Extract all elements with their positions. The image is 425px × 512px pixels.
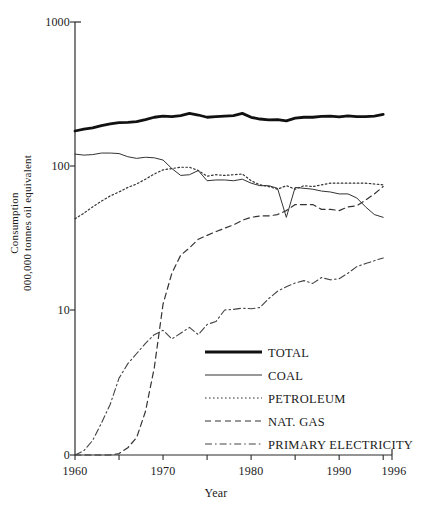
series-line-nat-gas xyxy=(75,187,383,455)
series-line-primary-electricity xyxy=(75,258,383,455)
chart-container: Consumption 000,000 tonnes oil equivalen… xyxy=(0,0,425,512)
legend-label-primary-electricity: PRIMARY ELECTRICITY xyxy=(268,438,413,453)
legend-label-petroleum: PETROLEUM xyxy=(268,392,346,407)
legend-label-nat-gas: NAT. GAS xyxy=(268,415,325,430)
series-line-total xyxy=(75,113,383,131)
legend-label-coal: COAL xyxy=(268,369,303,384)
series-line-coal xyxy=(75,153,383,217)
plot-area xyxy=(0,0,425,512)
legend-label-total: TOTAL xyxy=(268,346,309,361)
